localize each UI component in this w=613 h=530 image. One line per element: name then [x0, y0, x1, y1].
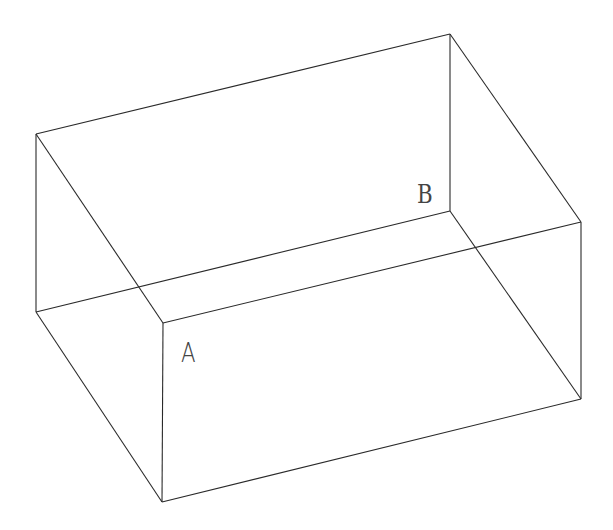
vertex-label-b: B: [417, 181, 433, 207]
edge-p3-p8: [450, 211, 581, 399]
edge-p2-p4: [450, 34, 581, 222]
edge-p7-p8: [162, 399, 581, 502]
box-diagram: [0, 0, 613, 530]
box-edges: [36, 34, 581, 502]
edge-p1-p6: [36, 134, 163, 323]
edge-p5-p7: [36, 312, 162, 502]
edge-p6-p7: [162, 323, 163, 502]
vertex-label-a: A: [181, 340, 196, 366]
edge-p1-p2: [36, 34, 450, 134]
edge-p4-p6: [163, 222, 581, 323]
